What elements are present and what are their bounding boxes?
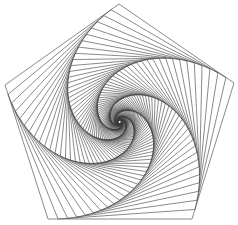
spiral-figure bbox=[0, 0, 238, 225]
pentagon-spiral-drawing bbox=[0, 0, 238, 225]
nested-pentagons bbox=[5, 4, 234, 219]
